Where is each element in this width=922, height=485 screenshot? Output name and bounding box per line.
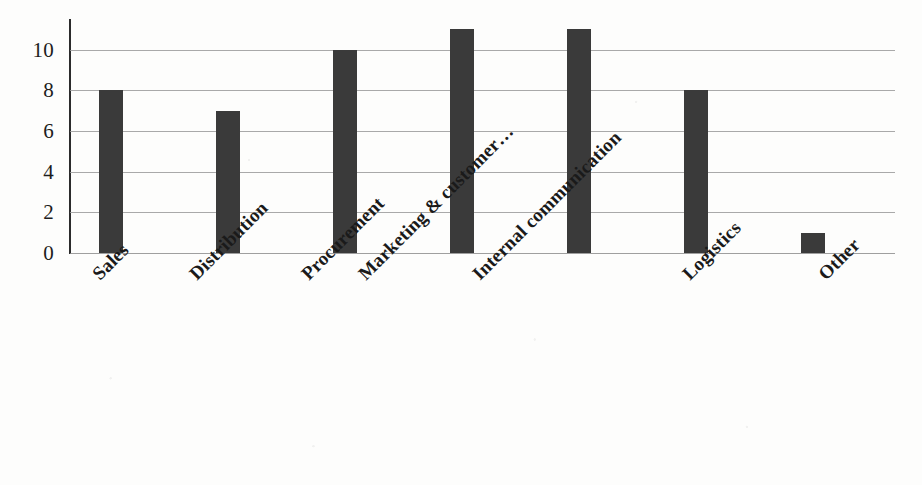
y-tick-label-6: 6 — [43, 120, 54, 141]
y-tick-label-4: 4 — [43, 161, 54, 182]
y-tick-label-2: 2 — [43, 202, 54, 223]
bar-logistics[interactable] — [684, 90, 708, 253]
y-tick-label-8: 8 — [43, 80, 54, 101]
x-axis-category-labels: Sales Distribution Procurement Marketing… — [70, 253, 895, 485]
plot-area — [70, 19, 895, 253]
bar-internal-communication[interactable] — [567, 29, 591, 253]
bar-sales[interactable] — [99, 90, 123, 253]
bar-other[interactable] — [801, 233, 825, 253]
y-axis-tick-labels: 10 8 6 4 2 0 — [0, 0, 62, 485]
y-tick-label-0: 0 — [43, 243, 54, 264]
bar-series — [70, 19, 895, 253]
bar-marketing-customer[interactable] — [450, 29, 474, 253]
y-tick-label-10: 10 — [33, 39, 54, 60]
bar-chart: 10 8 6 4 2 0 Sales Distribution — [0, 0, 922, 485]
